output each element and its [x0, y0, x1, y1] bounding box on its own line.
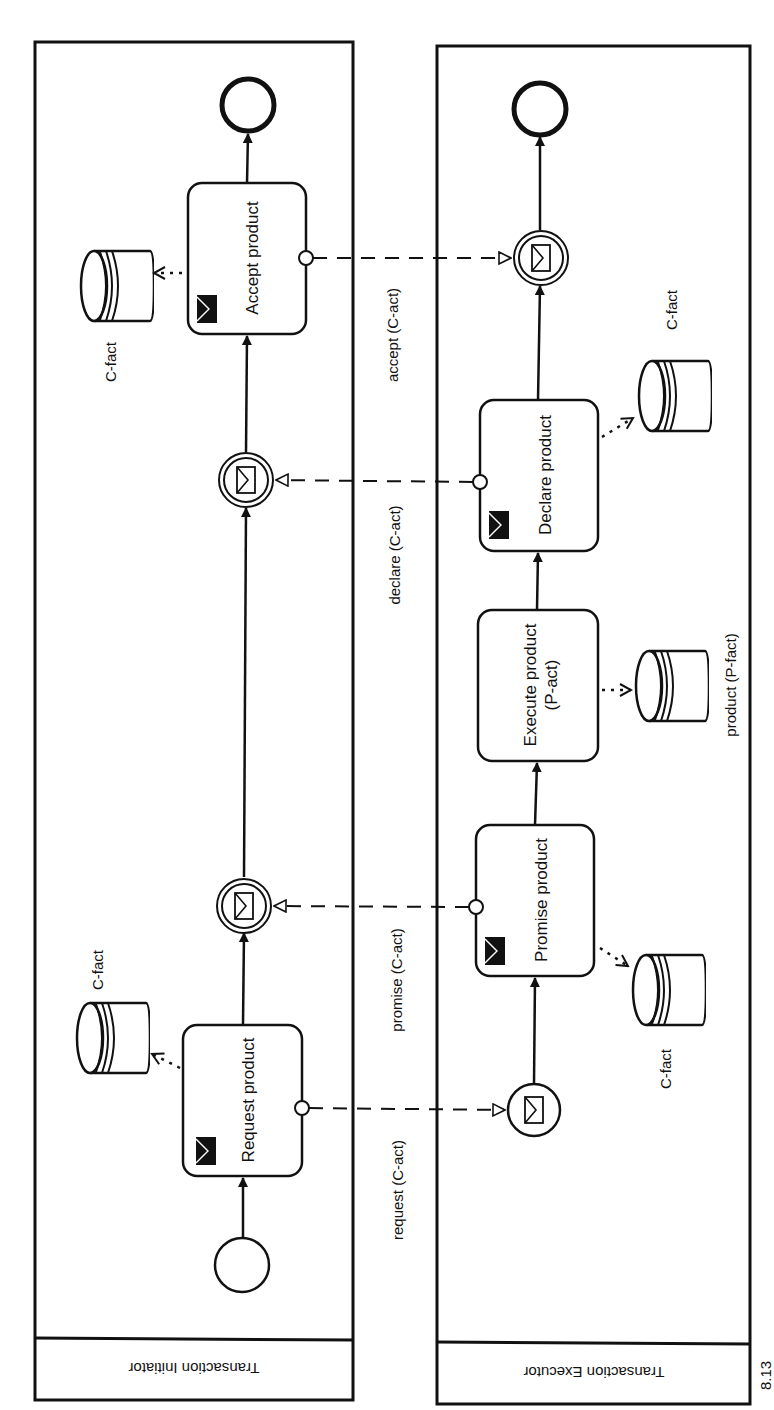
task-promise-product[interactable]: Promise product [469, 825, 594, 976]
svg-text:C-fact: C-fact [657, 1048, 674, 1089]
svg-text:accept (C-act): accept (C-act) [384, 288, 401, 382]
task-label: Promise product [532, 838, 551, 962]
database-icon [81, 251, 154, 321]
envelope-icon [532, 245, 550, 271]
pool-label-executor: Transaction Executor [523, 1364, 664, 1381]
end-event-executor [514, 83, 566, 135]
envelope-icon [525, 1097, 543, 1123]
start-event [215, 1238, 269, 1292]
svg-text:C-fact: C-fact [663, 289, 680, 330]
database-icon [636, 651, 709, 721]
task-label: Request product [239, 1037, 258, 1162]
pool-label-initiator: Transaction Initiator [128, 1360, 259, 1377]
database-icon [639, 361, 712, 431]
message-catch-event-promise [217, 879, 271, 933]
message-port [473, 475, 487, 489]
task-label: Declare product [536, 415, 555, 535]
task-declare-product[interactable]: Declare product [473, 400, 598, 551]
message-port [299, 251, 313, 265]
message-catch-event-accept [514, 231, 568, 285]
database-icon [633, 955, 706, 1025]
envelope-icon [235, 893, 253, 919]
send-message-icon [197, 295, 217, 323]
task-label-line1: Execute product [521, 623, 540, 746]
svg-text:request (C-act): request (C-act) [389, 1140, 406, 1240]
figure-caption-fragment: 8.13 [757, 1361, 774, 1390]
svg-text:C-fact: C-fact [89, 949, 106, 990]
svg-text:product (P-fact): product (P-fact) [722, 633, 739, 736]
database-icon [77, 1003, 150, 1073]
task-label: Accept product [243, 201, 262, 315]
end-event-initiator [222, 79, 274, 131]
task-label-line2: (P-act) [542, 660, 561, 711]
envelope-icon [237, 467, 255, 493]
svg-text:C-fact: C-fact [102, 341, 119, 382]
message-start-event-request [508, 1084, 560, 1136]
send-message-icon [196, 1137, 216, 1165]
task-request-product[interactable]: Request product [183, 1025, 309, 1176]
task-accept-product[interactable]: Accept product [188, 183, 313, 334]
message-port [295, 1101, 309, 1115]
svg-text:promise (C-act): promise (C-act) [388, 928, 405, 1031]
bpmn-diagram: Transaction Initiator Transaction Execut… [0, 0, 774, 1410]
task-execute-product[interactable]: Execute product (P-act) [478, 610, 598, 761]
send-message-icon [489, 511, 509, 539]
svg-text:declare (C-act): declare (C-act) [386, 505, 403, 604]
message-catch-event-declare [219, 453, 273, 507]
send-message-icon [485, 937, 505, 965]
message-port [469, 900, 483, 914]
